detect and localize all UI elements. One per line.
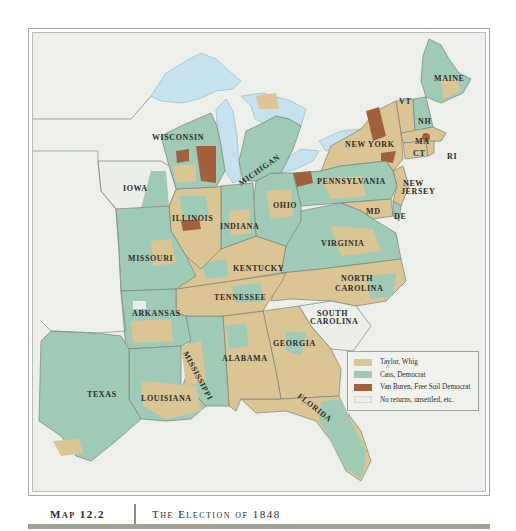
svg-text:ALABAMA: ALABAMA bbox=[222, 354, 268, 363]
svg-text:GEORGIA: GEORGIA bbox=[273, 339, 316, 348]
swatch-whig bbox=[354, 359, 372, 366]
svg-text:NORTH: NORTH bbox=[341, 274, 373, 283]
map-frame: MAINE VT NH MA CT RI NEW YORK NEW JERSEY… bbox=[28, 28, 490, 496]
legend-item-democrat: Cass, Democrat bbox=[354, 369, 472, 382]
svg-text:ARKANSAS: ARKANSAS bbox=[132, 309, 181, 318]
svg-text:LOUISIANA: LOUISIANA bbox=[141, 394, 192, 403]
swatch-no-returns bbox=[354, 396, 372, 403]
svg-text:TENNESSEE: TENNESSEE bbox=[214, 293, 267, 302]
svg-text:PENNSYLVANIA: PENNSYLVANIA bbox=[317, 177, 386, 186]
svg-text:MA: MA bbox=[415, 137, 430, 146]
svg-text:MISSOURI: MISSOURI bbox=[128, 254, 173, 263]
svg-text:NH: NH bbox=[418, 117, 431, 126]
svg-text:JERSEY: JERSEY bbox=[401, 187, 435, 196]
svg-text:TEXAS: TEXAS bbox=[87, 390, 117, 399]
swatch-free-soil bbox=[354, 384, 372, 391]
map-title: The Election of 1848 bbox=[152, 508, 281, 520]
legend-item-free-soil: Van Buren, Free Soil Democrat bbox=[354, 381, 472, 394]
swatch-democrat bbox=[354, 371, 372, 378]
map-caption: Map 12.2 The Election of 1848 bbox=[28, 500, 490, 530]
caption-divider bbox=[134, 504, 136, 526]
svg-text:VT: VT bbox=[399, 97, 411, 106]
map-legend: Taylor, Whig Cass, Democrat Van Buren, F… bbox=[347, 351, 479, 411]
svg-text:CAROLINA: CAROLINA bbox=[335, 284, 383, 293]
svg-text:MAINE: MAINE bbox=[434, 74, 465, 83]
svg-text:DE: DE bbox=[394, 212, 406, 221]
svg-text:CT: CT bbox=[413, 149, 425, 158]
svg-text:IOWA: IOWA bbox=[123, 184, 148, 193]
svg-text:CAROLINA: CAROLINA bbox=[310, 317, 358, 326]
svg-text:OHIO: OHIO bbox=[273, 201, 297, 210]
map-area: MAINE VT NH MA CT RI NEW YORK NEW JERSEY… bbox=[32, 32, 486, 492]
legend-item-whig: Taylor, Whig bbox=[354, 356, 472, 369]
svg-text:INDIANA: INDIANA bbox=[220, 222, 259, 231]
election-map: MAINE VT NH MA CT RI NEW YORK NEW JERSEY… bbox=[33, 33, 486, 492]
svg-text:MD: MD bbox=[366, 207, 381, 216]
svg-text:ILLINOIS: ILLINOIS bbox=[172, 214, 213, 223]
svg-text:VIRGINIA: VIRGINIA bbox=[321, 239, 364, 248]
caption-rule bbox=[28, 524, 490, 529]
svg-text:WISCONSIN: WISCONSIN bbox=[152, 133, 204, 142]
svg-text:KENTUCKY: KENTUCKY bbox=[233, 264, 284, 273]
map-number: Map 12.2 bbox=[50, 508, 105, 520]
svg-text:RI: RI bbox=[447, 152, 457, 161]
legend-item-no-returns: No returns, unsettled, etc. bbox=[354, 394, 472, 407]
svg-text:NEW YORK: NEW YORK bbox=[345, 140, 395, 149]
